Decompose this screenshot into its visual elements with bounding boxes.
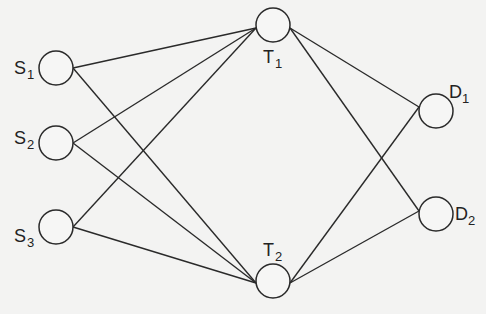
edge-s2-t2 — [73, 143, 256, 283]
node-label-d2: D — [455, 204, 468, 224]
node-subscript-s2: 2 — [27, 137, 34, 152]
node-label-s3: S — [14, 226, 26, 246]
node-t1 — [256, 8, 290, 42]
edge-s1-t2 — [73, 68, 256, 283]
node-s2 — [39, 126, 73, 160]
network-graph: S1S2S3T1T2D1D2 — [0, 0, 486, 314]
edge-t1-d1 — [290, 28, 419, 107]
node-label-t2: T — [263, 240, 274, 260]
node-label-s1: S — [14, 58, 26, 78]
edge-t1-d2 — [290, 28, 419, 211]
node-t2 — [256, 264, 290, 298]
node-subscript-t1: 1 — [275, 56, 282, 71]
node-subscript-s1: 1 — [27, 67, 34, 82]
edge-t2-d2 — [290, 211, 419, 283]
edge-t2-d1 — [290, 107, 419, 283]
node-subscript-s3: 3 — [27, 235, 34, 250]
node-subscript-t2: 2 — [275, 249, 282, 264]
node-d2 — [419, 197, 453, 231]
edge-layer — [73, 28, 419, 283]
node-label-s2: S — [14, 128, 26, 148]
node-layer — [39, 8, 453, 298]
node-s3 — [39, 210, 73, 244]
node-label-t1: T — [263, 47, 274, 67]
diagram-canvas: S1S2S3T1T2D1D2 — [0, 0, 486, 314]
edge-s3-t1 — [73, 28, 256, 227]
edge-s1-t1 — [73, 28, 256, 68]
node-d1 — [419, 94, 453, 128]
node-subscript-d1: 1 — [462, 91, 469, 106]
edge-s3-t2 — [73, 227, 256, 283]
node-subscript-d2: 2 — [468, 213, 475, 228]
node-s1 — [39, 51, 73, 85]
edge-s2-t1 — [73, 28, 256, 143]
node-label-d1: D — [449, 82, 462, 102]
